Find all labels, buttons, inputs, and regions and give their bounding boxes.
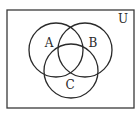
venn-diagram: U A B C — [0, 0, 140, 116]
universe-rectangle — [7, 10, 134, 108]
set-a-circle — [29, 23, 83, 77]
set-c-label: C — [65, 78, 74, 92]
universe-label: U — [118, 12, 128, 26]
set-b-label: B — [89, 36, 98, 50]
set-a-label: A — [44, 36, 54, 50]
set-b-circle — [58, 23, 112, 77]
